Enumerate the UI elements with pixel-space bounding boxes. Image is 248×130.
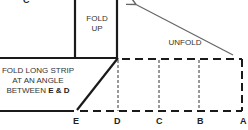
fold-up-line2: UP <box>77 24 117 34</box>
point-label-c: C <box>156 116 163 126</box>
point-label-c-top: C <box>23 0 30 5</box>
instruction-d: D <box>64 86 70 95</box>
instruction-line1: FOLD LONG STRIP <box>0 66 76 76</box>
fold-up-label: FOLD UP <box>77 14 117 34</box>
instruction-line3: BETWEEN E & D <box>0 86 76 96</box>
angle-fold-line <box>77 58 118 110</box>
unfold-label: UNFOLD <box>155 38 215 48</box>
point-label-d: D <box>114 116 121 126</box>
point-label-e: E <box>73 116 79 126</box>
point-label-a: A <box>240 116 247 126</box>
instruction-amp: & <box>54 86 64 95</box>
point-label-b: B <box>197 116 204 126</box>
fold-diagram <box>0 0 248 130</box>
instruction-text: FOLD LONG STRIP AT AN ANGLE BETWEEN E & … <box>0 66 76 96</box>
instruction-line2: AT AN ANGLE <box>0 76 76 86</box>
fold-up-line1: FOLD <box>77 14 117 24</box>
instruction-between: BETWEEN <box>6 86 48 95</box>
